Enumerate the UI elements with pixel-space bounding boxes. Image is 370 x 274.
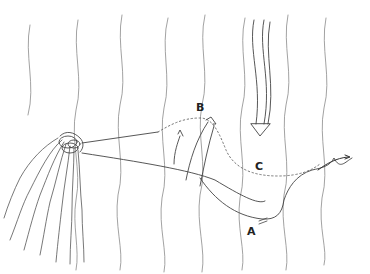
label-A: A <box>247 225 256 238</box>
downward-arrow-above-C <box>251 20 271 136</box>
solid-path-A <box>200 158 352 219</box>
diagram-canvas: B C A <box>0 0 370 274</box>
label-B: B <box>196 101 204 114</box>
diagram-drawing <box>0 0 370 274</box>
tether-lines <box>82 132 265 202</box>
upward-arrow-at-B <box>174 117 216 186</box>
label-C: C <box>255 160 263 173</box>
kelp-holdfast-cluster <box>4 132 84 264</box>
dotted-path-through-B-and-C <box>158 118 320 176</box>
solid-path-to-A <box>82 153 265 202</box>
